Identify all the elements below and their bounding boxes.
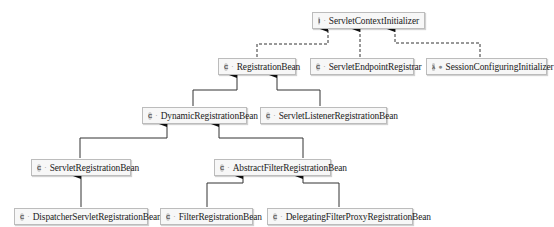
visibility-icon: · bbox=[227, 164, 229, 171]
node-label: RegistrationBean bbox=[237, 62, 301, 72]
class-icon: C bbox=[20, 213, 24, 221]
class-icon: C bbox=[37, 164, 41, 172]
node-session-configuring-initializer[interactable]: λ ● SessionConfiguringInitializer bbox=[426, 58, 547, 75]
node-label: ServletListenerRegistrationBean bbox=[279, 111, 398, 121]
node-label: AbstractFilterRegistrationBean bbox=[233, 163, 347, 173]
class-icon: C bbox=[166, 213, 170, 221]
class-icon: C bbox=[266, 112, 270, 120]
node-delegating-filter-proxy-registration-bean[interactable]: C · DelegatingFilterProxyRegistrationBea… bbox=[267, 208, 413, 225]
node-servlet-endpoint-registrar[interactable]: C · ServletEndpointRegistrar bbox=[310, 58, 414, 75]
node-label: FilterRegistrationBean bbox=[179, 212, 262, 222]
node-label: SessionConfiguringInitializer bbox=[446, 62, 554, 72]
node-label: ServletRegistrationBean bbox=[50, 163, 139, 173]
lambda-icon: λ bbox=[432, 63, 435, 71]
visibility-icon: · bbox=[155, 112, 157, 119]
edge-sci2-to-sci bbox=[395, 29, 480, 57]
node-label: DynamicRegistrationBean bbox=[161, 111, 258, 121]
class-icon: C bbox=[316, 63, 320, 71]
visibility-icon: · bbox=[231, 63, 233, 70]
node-servlet-registration-bean[interactable]: C · ServletRegistrationBean bbox=[31, 159, 131, 176]
node-label: ServletEndpointRegistrar bbox=[329, 62, 422, 72]
visibility-icon: · bbox=[173, 213, 175, 220]
class-icon: C bbox=[148, 112, 152, 120]
node-dispatcher-servlet-registration-bean[interactable]: C · DispatcherServletRegistrationBean bbox=[14, 208, 148, 225]
visibility-icon: · bbox=[273, 112, 275, 119]
edge-dfpr-to-afrb bbox=[303, 176, 339, 207]
node-abstract-filter-registration-bean[interactable]: C · AbstractFilterRegistrationBean bbox=[214, 159, 331, 176]
node-label: ServletContextInitializer bbox=[329, 16, 419, 26]
class-icon: C bbox=[224, 63, 228, 71]
node-registration-bean[interactable]: C · RegistrationBean bbox=[218, 58, 296, 75]
visibility-icon: · bbox=[323, 63, 325, 70]
class-icon: C bbox=[220, 164, 224, 172]
class-icon: C bbox=[273, 213, 277, 221]
edge-rb-to-sci bbox=[257, 29, 328, 57]
visibility-icon: ● bbox=[438, 63, 442, 70]
visibility-icon: · bbox=[27, 213, 29, 220]
node-servlet-context-initializer[interactable]: I · ServletContextInitializer bbox=[312, 12, 425, 29]
edge-drb-to-rb bbox=[193, 75, 237, 106]
visibility-icon: · bbox=[280, 213, 282, 220]
node-label: DispatcherServletRegistrationBean bbox=[33, 212, 162, 222]
node-servlet-listener-registration-bean[interactable]: C · ServletListenerRegistrationBean bbox=[260, 107, 387, 124]
visibility-icon: · bbox=[323, 17, 325, 24]
edge-frb-to-afrb bbox=[207, 176, 243, 207]
edge-slrb-to-rb bbox=[277, 75, 320, 106]
interface-icon: I bbox=[318, 17, 320, 25]
node-label: DelegatingFilterProxyRegistrationBean bbox=[286, 212, 431, 222]
node-dynamic-registration-bean[interactable]: C · DynamicRegistrationBean bbox=[142, 107, 247, 124]
node-filter-registration-bean[interactable]: C · FilterRegistrationBean bbox=[160, 208, 253, 225]
edge-afrb-to-drb bbox=[219, 124, 303, 158]
visibility-icon: · bbox=[44, 164, 46, 171]
edge-srb-to-drb bbox=[80, 124, 167, 158]
